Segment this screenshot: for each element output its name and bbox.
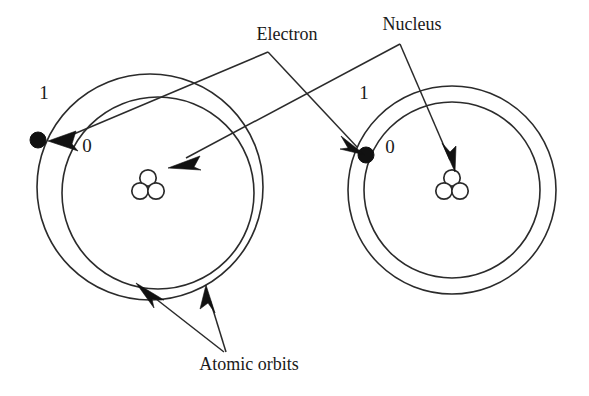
atomic-orbit-diagram: 1 0 1 0 Electr xyxy=(0,0,589,396)
nucleus-label: Nucleus xyxy=(383,14,442,34)
left-atom-shell-0-label: 0 xyxy=(82,135,92,156)
nucleon-bottom-left xyxy=(132,183,148,199)
canvas-background xyxy=(0,0,589,396)
left-atom-shell-1-label: 1 xyxy=(39,82,49,103)
right-atom-shell-1-label: 1 xyxy=(359,82,369,103)
nucleon-bottom-right xyxy=(452,183,468,199)
left-atom-electron xyxy=(30,132,46,148)
right-atom-shell-0-label: 0 xyxy=(385,136,395,157)
atomic-orbits-label: Atomic orbits xyxy=(199,354,299,374)
diagram-canvas: 1 0 1 0 Electr xyxy=(0,0,589,396)
right-atom-electron xyxy=(358,147,374,163)
nucleon-bottom-left xyxy=(436,183,452,199)
electron-label: Electron xyxy=(257,24,318,44)
nucleon-bottom-right xyxy=(148,183,164,199)
